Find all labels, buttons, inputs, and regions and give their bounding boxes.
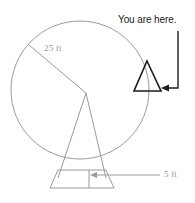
- support-leg-left: [58, 93, 86, 178]
- callout-arrowhead-icon: [161, 85, 169, 92]
- support-leg-right: [86, 93, 106, 178]
- radius-dimension-label: 25 ft: [44, 43, 62, 53]
- you-are-here-callout-label: You are here.: [118, 14, 176, 25]
- callout-leader-line: [167, 31, 178, 88]
- ferris-wheel-rim: [11, 21, 149, 159]
- base-dimension-arrowhead-icon: [90, 172, 97, 178]
- ferris-wheel-diagram: 25 ft 5 ft You are here.: [0, 0, 195, 203]
- base-width-dimension-label: 5 ft: [164, 169, 177, 179]
